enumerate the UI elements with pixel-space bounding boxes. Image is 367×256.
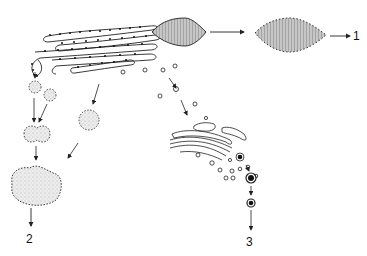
- dense-granule-2: [246, 173, 256, 183]
- granule-free: [255, 18, 326, 52]
- fused-vesicle: [24, 126, 50, 142]
- arrow: [181, 100, 187, 115]
- transport-vesicles: [121, 64, 208, 120]
- diagram-canvas: 1 2: [0, 0, 367, 256]
- dense-granule-1: [236, 153, 244, 161]
- pathway-diagram: 1 2: [0, 0, 367, 256]
- arrow: [68, 143, 78, 158]
- arrow: [39, 104, 47, 122]
- arrow: [93, 84, 99, 104]
- pathway-label-2: 2: [26, 232, 33, 246]
- vesicles-left: [24, 81, 99, 142]
- rough-er: [32, 26, 160, 76]
- pathway-label-1: 1: [353, 29, 360, 43]
- large-body: [12, 166, 62, 205]
- dense-granule-3: [247, 199, 255, 207]
- pathway-label-3: 3: [246, 235, 253, 249]
- golgi-apparatus: [170, 123, 258, 180]
- granule-attached: [152, 18, 206, 46]
- arrow: [169, 78, 176, 88]
